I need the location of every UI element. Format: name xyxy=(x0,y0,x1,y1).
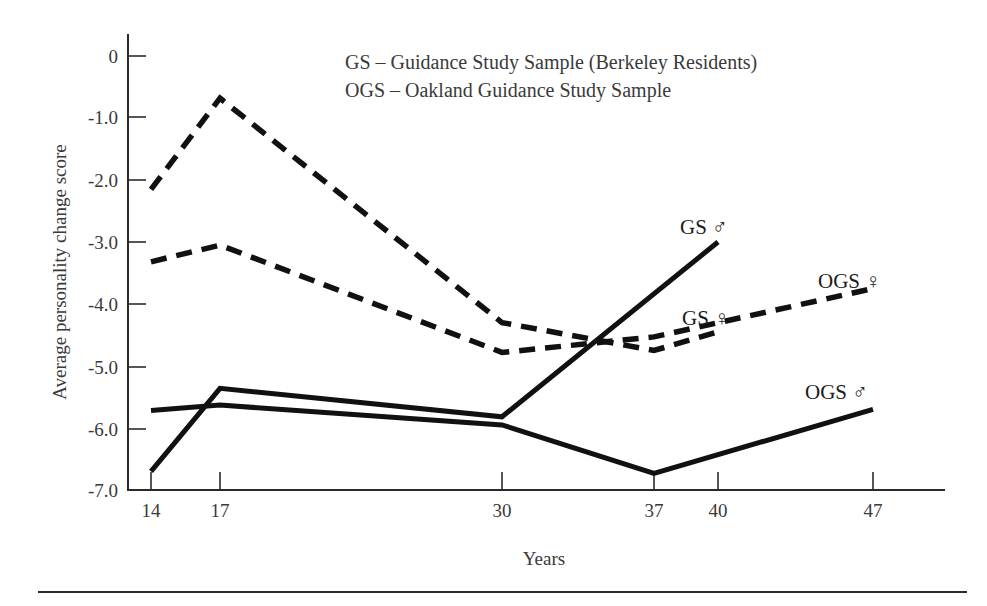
series-label-ogs-male: OGS ♂ xyxy=(805,380,868,404)
y-tick-label: -6.0 xyxy=(88,419,118,440)
series-line-gs-male xyxy=(151,242,718,471)
series-label-gs-female: GS ♀ xyxy=(682,306,730,330)
x-tick-label: 14 xyxy=(142,500,162,521)
y-tick-label: -7.0 xyxy=(88,480,118,501)
x-tick-label: 30 xyxy=(493,500,512,521)
y-tick-label: -4.0 xyxy=(88,294,118,315)
y-tick-label: 0 xyxy=(109,46,119,67)
legend-line-gs: GS – Guidance Study Sample (Berkeley Res… xyxy=(345,51,757,74)
x-tick-label: 40 xyxy=(709,500,728,521)
x-tick-label: 47 xyxy=(864,500,883,521)
x-axis-title: Years xyxy=(523,548,565,569)
series-line-ogs-male xyxy=(151,405,873,473)
x-axis-ticks xyxy=(151,472,873,490)
x-tick-label: 17 xyxy=(211,500,230,521)
footer-divider xyxy=(38,591,967,593)
series-label-ogs-female: OGS ♀ xyxy=(818,269,881,293)
y-tick-label: -5.0 xyxy=(88,357,118,378)
y-axis-tick-labels: 0 -1.0 -2.0 -3.0 -4.0 -5.0 -6.0 -7.0 xyxy=(88,46,118,501)
figure-container: 0 -1.0 -2.0 -3.0 -4.0 -5.0 -6.0 -7.0 14 … xyxy=(0,0,987,606)
series-line-ogs-female xyxy=(151,245,873,352)
y-tick-label: -2.0 xyxy=(88,170,118,191)
x-tick-label: 37 xyxy=(645,500,664,521)
x-axis-tick-labels: 14 17 30 37 40 47 xyxy=(142,500,883,521)
legend-line-ogs: OGS – Oakland Guidance Study Sample xyxy=(345,79,671,102)
line-chart: 0 -1.0 -2.0 -3.0 -4.0 -5.0 -6.0 -7.0 14 … xyxy=(0,0,987,606)
series-label-gs-male: GS ♂ xyxy=(680,215,728,239)
y-tick-label: -1.0 xyxy=(88,107,118,128)
y-axis-ticks xyxy=(128,56,146,429)
y-axis-title: Average personality change score xyxy=(49,144,70,400)
y-tick-label: -3.0 xyxy=(88,232,118,253)
